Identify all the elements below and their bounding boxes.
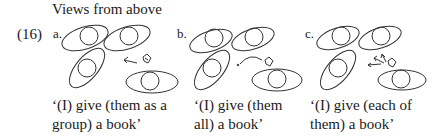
person-bottom-left-icon [314, 45, 362, 96]
people-diagram-b [150, 0, 300, 100]
caption: ‘(I) give (them all) a book’ [194, 96, 282, 134]
person-top-left-icon [314, 22, 362, 55]
panel-c: c. ‘(I) give (each of them) a book’ [295, 0, 435, 140]
book-hand-icon [265, 57, 273, 66]
arrow-icon [124, 57, 137, 63]
curved-arrow-icon [237, 57, 262, 66]
multiple-arrows-icon [368, 54, 386, 67]
panel-b: b. ‘(I) give (them all) a book’ [150, 0, 290, 140]
book-hand-icon [388, 58, 396, 67]
person-giver-icon [378, 70, 426, 90]
person-top-right-icon [356, 22, 404, 55]
panel-a: a. ‘(I) give (them as a group) a book’ [0, 0, 140, 140]
people-diagram-a [0, 0, 160, 100]
people-diagram-c [295, 0, 445, 100]
person-top-right-icon [101, 20, 153, 56]
person-top-right-icon [229, 23, 277, 56]
caption: ‘(I) give (each of them) a book’ [310, 96, 412, 134]
